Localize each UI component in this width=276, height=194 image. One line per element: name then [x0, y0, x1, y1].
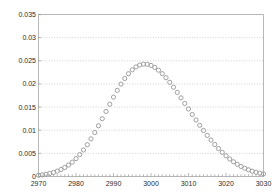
data-point [168, 80, 172, 84]
y-tick-label: 0.03 [22, 34, 36, 41]
data-point [186, 107, 190, 111]
grid-lines [39, 15, 264, 154]
data-point [74, 157, 78, 161]
x-tick-label: 3010 [175, 180, 203, 187]
data-point [111, 95, 115, 99]
data-point [126, 72, 130, 76]
data-point [153, 65, 157, 69]
data-points [36, 62, 265, 177]
data-point [115, 88, 119, 92]
data-point [190, 112, 194, 116]
y-tick-label: 0.015 [18, 104, 36, 111]
data-point [164, 76, 168, 80]
data-point [171, 85, 175, 89]
data-point [160, 72, 164, 76]
data-point [89, 137, 93, 141]
x-tick-label: 2970 [25, 180, 53, 187]
data-point [228, 157, 232, 161]
data-point [66, 163, 70, 167]
x-tick-label: 2990 [100, 180, 128, 187]
x-tick-label: 2980 [62, 180, 90, 187]
x-tick-label: 3020 [212, 180, 240, 187]
y-tick-label: 0.02 [22, 80, 36, 87]
data-point [224, 154, 228, 158]
y-tick-label: 0 [32, 173, 36, 180]
data-point [194, 118, 198, 122]
data-point [213, 142, 217, 146]
data-point [81, 148, 85, 152]
plot-frame [39, 15, 264, 177]
data-point [220, 150, 224, 154]
data-point [179, 96, 183, 100]
plot-area [0, 0, 275, 194]
y-tick-label: 0.035 [18, 11, 36, 18]
y-tick-label: 0.005 [18, 150, 36, 157]
data-point [205, 133, 209, 137]
data-point [104, 109, 108, 113]
data-point [209, 138, 213, 142]
data-point [123, 76, 127, 80]
data-point [85, 143, 89, 147]
data-point [183, 101, 187, 105]
x-tick-label: 3030 [250, 180, 276, 187]
data-point [108, 102, 112, 106]
data-point [70, 160, 74, 164]
frame-border [39, 15, 264, 177]
data-point [96, 124, 100, 128]
x-tick-label: 3000 [137, 180, 165, 187]
data-point [198, 123, 202, 127]
data-point [156, 68, 160, 72]
data-point [78, 153, 82, 157]
data-point [175, 90, 179, 94]
y-tick-label: 0.01 [22, 127, 36, 134]
data-point [216, 146, 220, 150]
data-point [100, 117, 104, 121]
axis-ticks [39, 15, 264, 177]
scatter-chart: 00.0050.010.0150.020.0250.030.035 297029… [0, 0, 275, 194]
y-tick-label: 0.025 [18, 57, 36, 64]
data-point [130, 68, 134, 72]
data-point [93, 130, 97, 134]
